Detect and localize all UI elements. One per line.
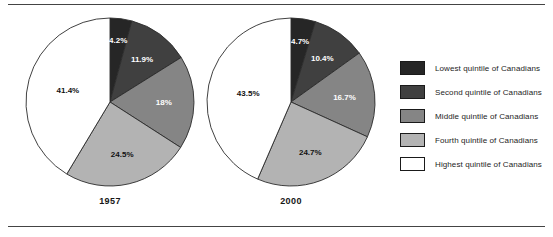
year-label-1957: 1957 <box>22 196 198 206</box>
pie-slice-label: 4.7% <box>291 37 309 46</box>
pie-chart-1957: 4.2%11.9%18%24.5%41.4% <box>22 14 198 190</box>
pie-slice-label: 24.5% <box>111 150 134 159</box>
pie-slice-label: 24.7% <box>299 148 322 157</box>
bottom-divider-rule <box>8 226 545 227</box>
pie-chart-figure: 4.2%11.9%18%24.5%41.4% 4.7%10.4%16.7%24.… <box>0 0 553 237</box>
legend-label-highest-quintile: Highest quintile of Canadians <box>435 160 542 169</box>
legend-item-middle-quintile: Middle quintile of Canadians <box>400 104 550 128</box>
legend-label-lowest-quintile: Lowest quintile of Canadians <box>435 64 540 73</box>
legend-swatch-second-quintile <box>400 85 425 99</box>
charts-area: 4.2%11.9%18%24.5%41.4% 4.7%10.4%16.7%24.… <box>0 8 553 223</box>
legend-label-fourth-quintile: Fourth quintile of Canadians <box>435 136 538 145</box>
year-label-2000: 2000 <box>203 196 379 206</box>
legend-swatch-lowest-quintile <box>400 61 425 75</box>
pie-slice-label: 4.2% <box>109 36 127 45</box>
legend-swatch-highest-quintile <box>400 157 425 171</box>
legend-label-second-quintile: Second quintile of Canadians <box>435 88 542 97</box>
pie-slice-label: 18% <box>156 98 172 107</box>
top-divider-rule <box>8 4 545 5</box>
legend: Lowest quintile of Canadians Second quin… <box>400 56 550 176</box>
pie-svg-2000: 4.7%10.4%16.7%24.7%43.5% <box>203 14 379 190</box>
pie-slice-label: 16.7% <box>333 93 356 102</box>
pie-slice-label: 43.5% <box>237 89 260 98</box>
pie-svg-1957: 4.2%11.9%18%24.5%41.4% <box>22 14 198 190</box>
pie-chart-2000: 4.7%10.4%16.7%24.7%43.5% <box>203 14 379 190</box>
legend-label-middle-quintile: Middle quintile of Canadians <box>435 112 538 121</box>
legend-swatch-fourth-quintile <box>400 133 425 147</box>
legend-item-fourth-quintile: Fourth quintile of Canadians <box>400 128 550 152</box>
legend-item-lowest-quintile: Lowest quintile of Canadians <box>400 56 550 80</box>
legend-item-highest-quintile: Highest quintile of Canadians <box>400 152 550 176</box>
pie-slice-label: 10.4% <box>311 54 334 63</box>
pie-slice-label: 11.9% <box>131 55 153 64</box>
legend-swatch-middle-quintile <box>400 109 425 123</box>
legend-item-second-quintile: Second quintile of Canadians <box>400 80 550 104</box>
pie-slice-label: 41.4% <box>57 86 80 95</box>
